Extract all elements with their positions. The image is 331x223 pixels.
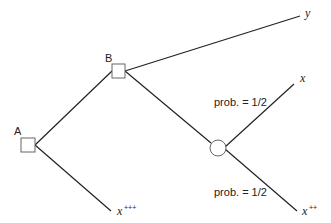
decision-node-a [21,138,35,152]
outcome-x-pp-label: x [301,204,308,218]
edge-chance-x [225,84,294,147]
outcome-x-ppp-sup: +++ [124,204,136,211]
node-b-label: B [105,52,112,64]
prob-label-lower: prob. = 1/2 [214,186,267,198]
decision-node-b [112,64,125,78]
edge-a-x-ppp [35,145,111,211]
outcome-y-label: y [304,6,311,20]
outcome-x-ppp-label: x [116,204,123,218]
decision-tree-diagram: A B prob. = 1/2 prob. = 1/2 y x x ++ x +… [0,0,331,223]
edge-b-y [125,16,300,71]
prob-label-upper: prob. = 1/2 [214,96,267,108]
outcome-x-label: x [299,71,306,85]
outcome-x-pp-sup: ++ [309,204,317,211]
chance-node [210,140,226,156]
edge-b-chance [125,71,211,143]
edge-chance-x-pp [225,149,297,211]
node-a-label: A [14,125,22,137]
edge-a-b [35,71,112,145]
